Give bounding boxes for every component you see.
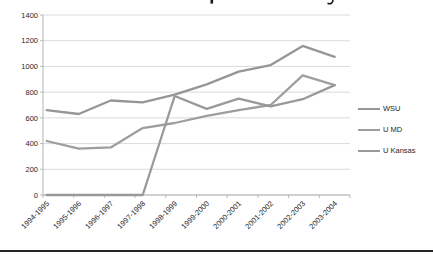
x-axis-label: 1998-1999 — [147, 199, 179, 231]
legend-item: U MD — [358, 119, 416, 140]
x-axis-label: 1999-2000 — [179, 199, 211, 231]
legend-swatch-icon — [358, 150, 380, 152]
legend-swatch-icon — [358, 108, 380, 110]
series-line-wsu — [47, 46, 335, 114]
x-axis-label: 1994-1995 — [19, 199, 51, 231]
cropped-title-fragment — [328, 0, 334, 4]
series-line-u-md — [47, 75, 335, 148]
document-rule — [0, 250, 433, 252]
x-axis-label: 2001-2002 — [243, 199, 275, 231]
y-axis-label: 600 — [25, 114, 38, 123]
x-axis-label: 1997-1998 — [115, 199, 147, 231]
y-axis-label: 800 — [25, 88, 38, 97]
y-axis-label: 1000 — [21, 62, 38, 71]
x-axis-label: 2003-2004 — [307, 199, 339, 231]
legend-label: WSU — [383, 105, 401, 113]
y-axis-label: 400 — [25, 139, 38, 148]
x-axis-label: 1996-1997 — [83, 199, 115, 231]
x-axis-label: 2000-2001 — [211, 199, 243, 231]
x-axis-label: 2002-2003 — [275, 199, 307, 231]
legend-label: U Kansas — [383, 147, 416, 155]
legend-item: U Kansas — [358, 140, 416, 161]
y-axis-label: 200 — [25, 165, 38, 174]
legend-label: U MD — [383, 126, 402, 134]
x-axis-label: 1995-1996 — [51, 199, 83, 231]
legend-swatch-icon — [358, 129, 380, 131]
series-line-u-kansas — [47, 85, 335, 195]
chart-region: 02004006008001000120014001994-19951995-1… — [0, 0, 433, 254]
y-axis-label: 1400 — [21, 11, 38, 20]
chart-legend: WSUU MDU Kansas — [358, 98, 416, 161]
y-axis-label: 1200 — [21, 36, 38, 45]
legend-item: WSU — [358, 98, 416, 119]
y-axis-label: 0 — [34, 191, 38, 200]
cropped-title-fragment — [211, 0, 214, 4]
